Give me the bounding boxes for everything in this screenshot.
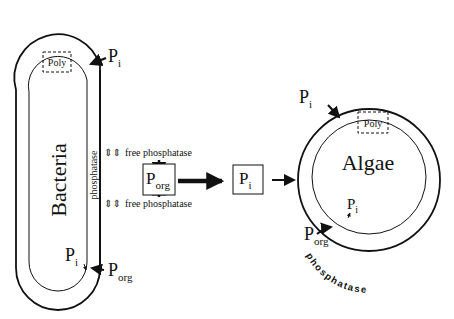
svg-text:Poly: Poly bbox=[364, 118, 382, 129]
porg-box: Porg bbox=[143, 164, 175, 195]
double-arrow-icon: ⇕⇕ bbox=[104, 198, 121, 209]
free-phosphatase-top: ⇕⇕ free phosphatase bbox=[104, 147, 192, 158]
algae-pi-release-arrow bbox=[348, 213, 350, 218]
free-phosphatase-bottom: ⇕⇕ free phosphatase bbox=[104, 198, 192, 209]
pi-release-arrow bbox=[84, 264, 86, 270]
bacteria-pi-bottom: Pi bbox=[65, 245, 78, 268]
svg-text:free phosphatase: free phosphatase bbox=[125, 198, 192, 209]
algae-phosphatase-label: phosphatase bbox=[304, 251, 368, 295]
algae-label: Algae bbox=[342, 150, 395, 175]
algae-outer-membrane bbox=[298, 109, 440, 251]
algae-pi-top: Pi bbox=[299, 87, 312, 110]
bacteria-pi-top: Pi bbox=[108, 46, 121, 69]
phosphorus-cycle-diagram: Poly Bacteria phosphatase Pi Pi Porg ⇕⇕ … bbox=[0, 0, 454, 319]
algae-poly-box: Poly bbox=[358, 112, 388, 133]
bacteria-porg-bottom: Porg bbox=[108, 260, 133, 283]
bacteria-poly-box: Poly bbox=[43, 52, 71, 72]
algae-pi-uptake-arrow bbox=[328, 105, 339, 117]
bacteria-poly-label: Poly bbox=[48, 57, 66, 68]
double-arrow-icon: ⇕⇕ bbox=[104, 147, 121, 158]
bacteria-label: Bacteria bbox=[46, 143, 71, 217]
svg-text:free phosphatase: free phosphatase bbox=[125, 147, 192, 158]
pi-box: Pi bbox=[233, 165, 263, 194]
bacteria-phosphatase-label: phosphatase bbox=[88, 150, 99, 199]
algae-cell bbox=[298, 109, 440, 251]
algae-pi-inner: Pi bbox=[347, 196, 358, 215]
porg-uptake-arrow bbox=[92, 268, 104, 270]
algae-inner-membrane bbox=[312, 120, 426, 234]
